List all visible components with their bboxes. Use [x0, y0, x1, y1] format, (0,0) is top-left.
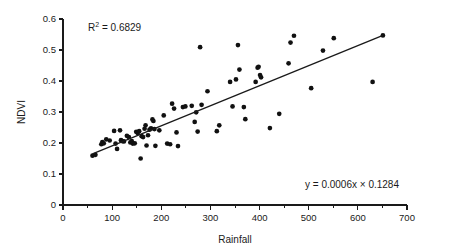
data-point	[153, 143, 158, 148]
y-axis-tick-label: 0.1	[43, 168, 56, 179]
x-axis-tick-label: 0	[60, 212, 65, 223]
data-point	[199, 103, 204, 108]
data-point	[268, 126, 273, 131]
trend-line-layer	[92, 35, 382, 153]
data-point	[243, 117, 248, 122]
data-point	[236, 43, 241, 48]
data-point	[277, 112, 282, 117]
data-point	[172, 106, 177, 111]
data-point	[195, 129, 200, 134]
x-axis-tick-label: 100	[104, 212, 120, 223]
data-point	[115, 147, 120, 152]
y-axis-tick-label: 0.6	[43, 13, 56, 24]
data-point	[192, 120, 197, 125]
y-axis-tick-label: 0.4	[43, 75, 56, 86]
r-squared-prefix: R	[88, 22, 95, 33]
x-axis-tick-label: 400	[252, 212, 268, 223]
data-point	[183, 104, 188, 109]
x-axis: 0100200300400500600700	[60, 205, 415, 223]
data-point	[157, 128, 162, 133]
data-point	[234, 77, 239, 82]
data-point	[237, 67, 242, 72]
data-point	[174, 130, 179, 135]
data-point	[370, 80, 375, 85]
scatter-chart: 00.10.20.30.40.50.6 01002003004005006007…	[0, 0, 460, 250]
data-point	[259, 75, 264, 80]
data-point	[189, 103, 194, 108]
data-point	[256, 64, 261, 69]
x-axis-title: Rainfall	[218, 234, 251, 245]
x-axis-tick-label: 600	[350, 212, 366, 223]
data-point	[331, 36, 336, 41]
y-axis-tick-label: 0.3	[43, 106, 56, 117]
data-point	[292, 33, 297, 38]
data-point	[143, 123, 148, 128]
data-point	[161, 113, 166, 118]
data-point	[217, 123, 222, 128]
data-point	[151, 119, 156, 124]
data-point	[205, 89, 210, 94]
data-point	[253, 80, 258, 85]
data-point	[146, 133, 151, 138]
data-point	[144, 143, 149, 148]
x-axis-tick-label: 700	[399, 212, 415, 223]
regression-equation-annotation: y = 0.0006x × 0.1284	[305, 179, 399, 190]
data-point	[176, 144, 181, 149]
data-point	[286, 61, 291, 66]
data-point	[230, 104, 235, 109]
chart-canvas: 00.10.20.30.40.50.6 01002003004005006007…	[0, 0, 460, 250]
data-point	[198, 45, 203, 50]
data-point	[170, 101, 175, 106]
data-point	[141, 135, 146, 140]
y-axis-title: NDVI	[16, 100, 27, 124]
data-point	[101, 141, 106, 146]
data-point	[168, 142, 173, 147]
y-axis-tick-label: 0.5	[43, 44, 56, 55]
x-axis-tick-label: 200	[153, 212, 169, 223]
data-point	[242, 105, 247, 110]
y-axis: 00.10.20.30.40.50.6	[43, 13, 63, 210]
data-point	[132, 141, 137, 146]
data-point	[228, 80, 233, 85]
data-point	[288, 40, 293, 45]
trend-line	[92, 35, 382, 153]
data-point	[107, 138, 112, 143]
data-point	[137, 129, 142, 134]
data-point	[118, 128, 123, 133]
y-axis-tick-label: 0.2	[43, 137, 56, 148]
r-squared-annotation: R2 = 0.6829	[88, 21, 142, 33]
r-squared-suffix: = 0.6829	[99, 22, 141, 33]
data-point	[138, 156, 143, 161]
data-point	[112, 129, 117, 134]
data-point	[214, 129, 219, 134]
y-axis-tick-label: 0	[51, 199, 56, 210]
x-axis-tick-label: 300	[202, 212, 218, 223]
data-point	[321, 48, 326, 53]
data-point	[309, 86, 314, 91]
x-axis-tick-label: 500	[301, 212, 317, 223]
